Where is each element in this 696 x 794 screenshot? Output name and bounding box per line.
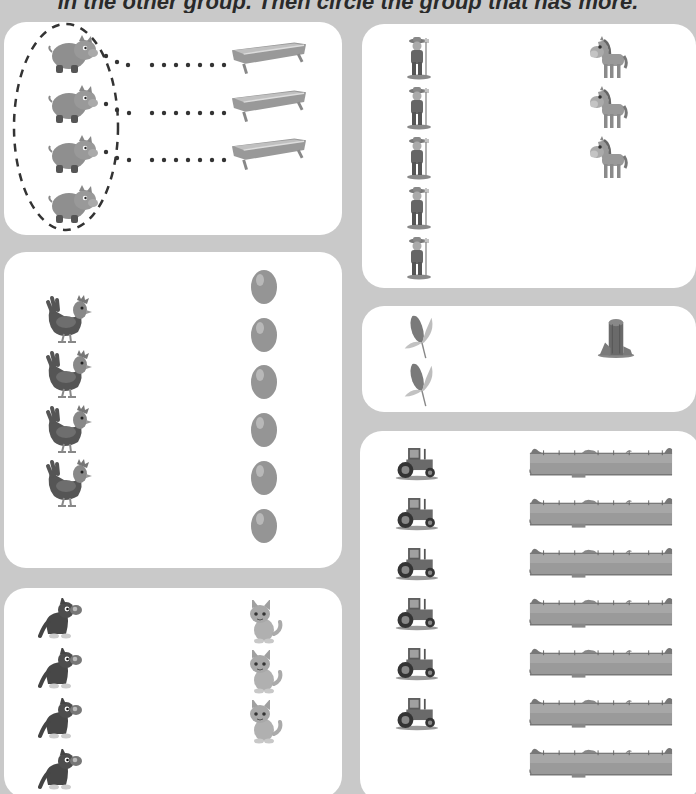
fence-icon — [528, 445, 674, 481]
fence-icon — [528, 545, 674, 581]
cat-icon — [244, 650, 284, 694]
exercise-box-dogs-cats — [4, 588, 342, 794]
farmer-icon — [404, 184, 434, 230]
exercise-box-farmers-horses — [362, 24, 696, 288]
tractor-icon — [394, 645, 438, 681]
tractor-icon — [394, 445, 438, 481]
hen-icon — [44, 404, 94, 456]
farmer-icon — [404, 34, 434, 80]
fence-icon — [528, 495, 674, 531]
exercise-box-corn-silo — [362, 306, 696, 412]
corn-icon — [402, 362, 438, 408]
trough-icon — [230, 136, 308, 172]
horse-icon — [588, 36, 628, 80]
fence-icon — [528, 595, 674, 631]
egg-icon — [249, 361, 279, 401]
exercise-box-pigs-troughs — [4, 22, 342, 235]
trough-icon — [230, 40, 308, 76]
exercise-box-hens-eggs — [4, 252, 342, 568]
farmer-icon — [404, 84, 434, 130]
tractor-icon — [394, 545, 438, 581]
dog-icon — [38, 598, 82, 642]
horse-icon — [588, 86, 628, 130]
dog-icon — [38, 698, 82, 742]
egg-icon — [249, 505, 279, 545]
cat-icon — [244, 700, 284, 744]
corn-icon — [402, 314, 438, 360]
tractor-icon — [394, 695, 438, 731]
exercise-box-tractors-fences — [360, 431, 696, 794]
farmer-icon — [404, 134, 434, 180]
instruction-text: in the other group. Then circle the grou… — [0, 0, 696, 13]
tractor-icon — [394, 495, 438, 531]
egg-icon — [249, 314, 279, 354]
tractor-icon — [394, 595, 438, 631]
fence-icon — [528, 745, 674, 781]
hen-icon — [44, 458, 94, 510]
dog-icon — [38, 749, 82, 793]
egg-icon — [249, 457, 279, 497]
fence-icon — [528, 695, 674, 731]
egg-icon — [249, 409, 279, 449]
hen-icon — [44, 294, 94, 346]
trough-icon — [230, 88, 308, 124]
cat-icon — [244, 600, 284, 644]
silo-icon — [596, 316, 636, 360]
fence-icon — [528, 645, 674, 681]
hen-icon — [44, 349, 94, 401]
farmer-icon — [404, 234, 434, 280]
dog-icon — [38, 648, 82, 692]
horse-icon — [588, 136, 628, 180]
egg-icon — [249, 266, 279, 306]
